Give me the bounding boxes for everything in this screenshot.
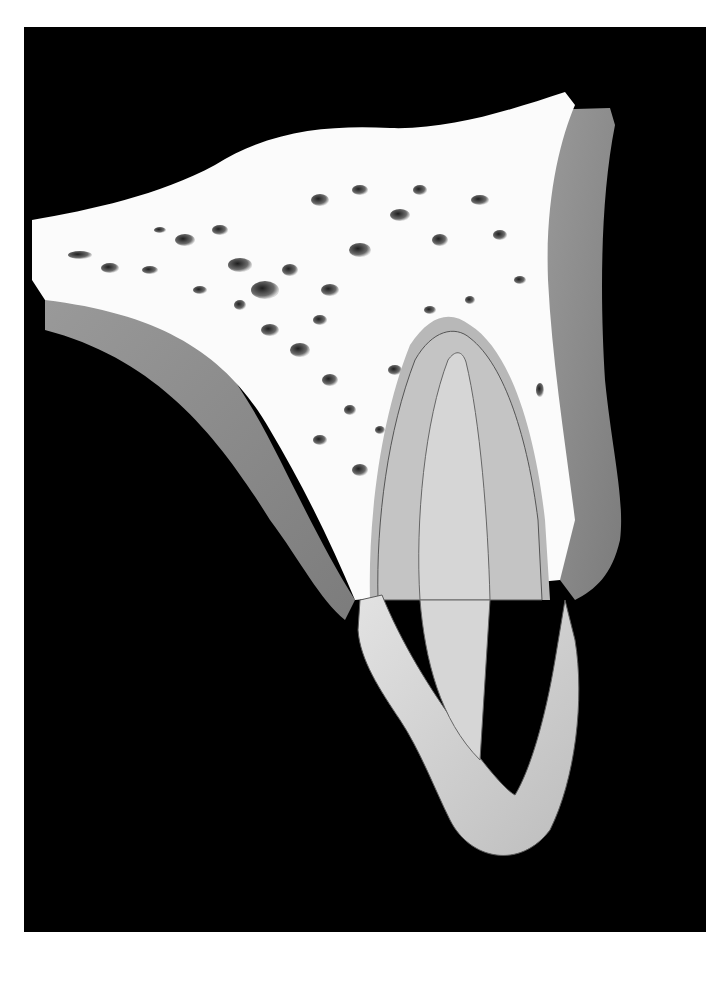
tooth-illustration <box>0 0 720 986</box>
